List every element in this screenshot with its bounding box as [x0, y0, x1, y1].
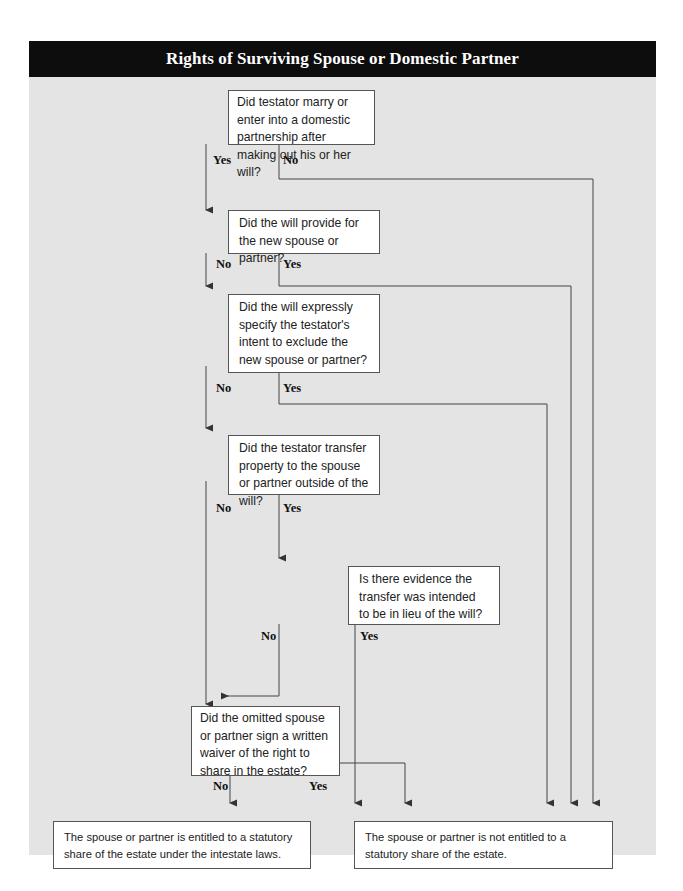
question-married-after-will: Did testator marry or enter into a domes… [228, 90, 375, 145]
label-q4-yes: Yes [283, 501, 301, 516]
outcome-entitled: The spouse or partner is entitled to a s… [53, 821, 311, 869]
label-q5-no: No [261, 629, 276, 644]
question-written-waiver: Did the omitted spouse or partner sign a… [191, 706, 340, 776]
label-q5-yes: Yes [360, 629, 378, 644]
question-will-provides: Did the will provide for the new spouse … [228, 210, 380, 254]
label-q2-no: No [216, 257, 231, 272]
question-transfer-outside-will: Did the testator transfer property to th… [228, 435, 380, 495]
label-q1-no: No [283, 153, 298, 168]
label-q6-no: No [213, 779, 228, 794]
label-q3-yes: Yes [283, 381, 301, 396]
label-q6-yes: Yes [309, 779, 327, 794]
question-intent-to-exclude: Did the will expressly specify the testa… [228, 294, 380, 373]
outcome-not-entitled: The spouse or partner is not entitled to… [354, 821, 613, 869]
label-q2-yes: Yes [283, 257, 301, 272]
question-transfer-in-lieu: Is there evidence the transfer was inten… [348, 566, 500, 625]
label-q1-yes: Yes [213, 153, 231, 168]
flowchart-panel: Rights of Surviving Spouse or Domestic P… [29, 41, 656, 855]
label-q4-no: No [216, 501, 231, 516]
label-q3-no: No [216, 381, 231, 396]
